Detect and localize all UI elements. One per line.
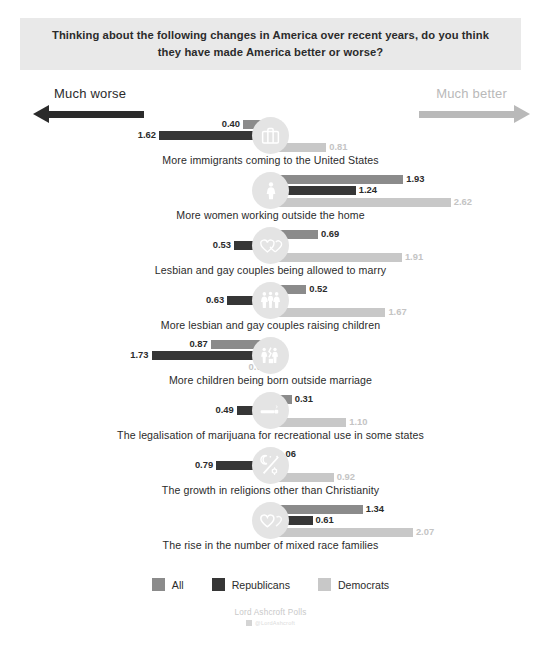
bar-value-rep: 1.24 — [359, 185, 377, 194]
social-handle: @LordAshcroft — [0, 620, 541, 626]
bar-value-rep: 0.63 — [206, 295, 224, 304]
legend-item: All — [152, 578, 184, 591]
religions-icon — [252, 447, 289, 484]
chart-row-bars: 0.871.730.01 — [0, 338, 541, 374]
bar-dem — [271, 253, 402, 262]
legend-label: All — [172, 579, 184, 591]
chart-row: 1.340.612.07The rise in the number of mi… — [0, 503, 541, 558]
bar-value-rep: 1.73 — [130, 350, 148, 359]
cannabis-icon — [252, 392, 289, 429]
chart-row-label: More children being born outside marriag… — [0, 374, 541, 386]
bar-value-rep: 0.53 — [213, 240, 231, 249]
chart-row: 0.520.631.67More lesbian and gay couples… — [0, 283, 541, 338]
woman-icon — [252, 172, 289, 209]
page-title: Thinking about the following changes in … — [46, 27, 495, 62]
chart-row-label: More women working outside the home — [0, 209, 541, 221]
legend-item: Republicans — [212, 578, 290, 591]
chart-row-label: Lesbian and gay couples being allowed to… — [0, 264, 541, 276]
suitcase-icon — [252, 117, 289, 154]
legend-item: Democrats — [318, 578, 389, 591]
chart-row: 0.690.531.91Lesbian and gay couples bein… — [0, 228, 541, 283]
bar-value-dem: 1.10 — [349, 417, 367, 426]
legend-swatch — [212, 578, 225, 591]
bar-dem — [271, 528, 413, 537]
direction-better-label: Much better — [351, 86, 521, 101]
chart-row: 0.060.790.92The growth in religions othe… — [0, 448, 541, 503]
bar-value-dem: 1.91 — [405, 252, 423, 261]
bar-value-all: 0.52 — [309, 284, 327, 293]
family-icon — [252, 282, 289, 319]
bar-value-rep: 1.62 — [138, 130, 156, 139]
bar-value-rep: 0.49 — [216, 405, 234, 414]
chart-page: Thinking about the following changes in … — [0, 0, 541, 660]
bar-value-dem: 0.92 — [337, 472, 355, 481]
chart-row-label: More lesbian and gay couples raising chi… — [0, 319, 541, 331]
bar-value-dem: 2.62 — [454, 197, 472, 206]
bar-value-all: 0.31 — [295, 394, 313, 403]
chart-row: 0.871.730.01More children being born out… — [0, 338, 541, 393]
bar-dem — [271, 198, 451, 207]
bar-value-all: 0.87 — [189, 339, 207, 348]
chart-row: 0.310.491.10The legalisation of marijuan… — [0, 393, 541, 448]
chart-row-bars: 0.690.531.91 — [0, 228, 541, 264]
chart-row-label: More immigrants coming to the United Sta… — [0, 154, 541, 166]
bar-dem — [271, 308, 386, 317]
bar-value-all: 1.34 — [366, 504, 384, 513]
chart-title-banner: Thinking about the following changes in … — [20, 18, 521, 70]
legend-swatch — [318, 578, 331, 591]
bar-value-all: 1.93 — [406, 174, 424, 183]
chart-row: 1.931.242.62More women working outside t… — [0, 173, 541, 228]
bar-value-dem: 1.67 — [388, 307, 406, 316]
legend-swatch — [152, 578, 165, 591]
heart-icon — [252, 502, 289, 539]
bar-value-rep: 0.61 — [316, 515, 334, 524]
chart-legend: AllRepublicansDemocrats — [0, 578, 541, 591]
legend-label: Democrats — [338, 579, 389, 591]
social-handle-text: @LordAshcroft — [255, 620, 295, 626]
bar-value-dem: 2.07 — [416, 527, 434, 536]
chart-row-label: The growth in religions other than Chris… — [0, 484, 541, 496]
chart-row-label: The legalisation of marijuana for recrea… — [0, 429, 541, 441]
two-hearts-icon — [252, 227, 289, 264]
chart-row-bars: 0.060.790.92 — [0, 448, 541, 484]
broken-family-icon — [252, 337, 289, 374]
chart-footer: Lord Ashcroft Polls @LordAshcroft — [0, 608, 541, 626]
bar-value-all: 0.69 — [321, 229, 339, 238]
bar-value-rep: 0.79 — [195, 460, 213, 469]
chart-row: 0.401.620.81More immigrants coming to th… — [0, 118, 541, 173]
source-credit: Lord Ashcroft Polls — [0, 608, 541, 617]
bar-value-dem: 0.81 — [329, 142, 347, 151]
chart-row-bars: 0.310.491.10 — [0, 393, 541, 429]
bar-all — [271, 175, 404, 184]
legend-label: Republicans — [232, 579, 290, 591]
chart-row-bars: 0.401.620.81 — [0, 118, 541, 154]
bar-value-all: 0.40 — [222, 119, 240, 128]
chart-row-bars: 1.340.612.07 — [0, 503, 541, 539]
chart-row-bars: 0.520.631.67 — [0, 283, 541, 319]
chart-row-label: The rise in the number of mixed race fam… — [0, 539, 541, 551]
chart-row-bars: 1.931.242.62 — [0, 173, 541, 209]
direction-worse-label: Much worse — [42, 86, 212, 101]
twitter-icon — [246, 620, 252, 626]
chart-rows: 0.401.620.81More immigrants coming to th… — [0, 118, 541, 558]
